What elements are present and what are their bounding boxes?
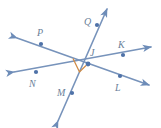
point-n: [34, 70, 38, 74]
geometry-canvas: [0, 0, 161, 128]
point-label-m: M: [57, 88, 65, 98]
point-label-p: P: [37, 28, 43, 38]
geometry-figure: P Q K J N M L: [0, 0, 161, 128]
point-m: [70, 91, 74, 95]
point-label-k: K: [118, 40, 125, 50]
line-p-l: [17, 38, 149, 85]
point-l: [118, 74, 122, 78]
point-j: [86, 62, 91, 67]
line-m-q: [58, 9, 107, 121]
point-label-q: Q: [84, 17, 91, 27]
point-label-l: L: [115, 83, 121, 93]
point-q: [95, 23, 99, 27]
point-label-j: J: [90, 48, 94, 58]
point-label-n: N: [29, 79, 36, 89]
point-k: [121, 53, 125, 57]
point-p: [39, 42, 43, 46]
